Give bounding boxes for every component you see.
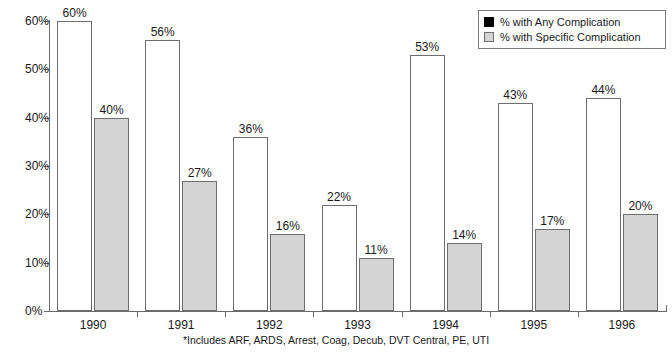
y-axis-tick-label: 10% (25, 257, 37, 269)
chart-footnote: *Includes ARF, ARDS, Arrest, Coag, Decub… (0, 334, 672, 346)
y-axis-tick-label: 40% (25, 112, 37, 124)
bar-any-1995: 43% (498, 103, 533, 311)
bar-any-1993: 22% (322, 205, 357, 311)
y-axis-tick-label: 50% (25, 63, 37, 75)
x-axis-line (49, 311, 666, 312)
bar-any-1992: 36% (233, 137, 268, 311)
x-axis-group-separator (490, 311, 491, 317)
x-axis-group-separator (313, 311, 314, 317)
bar-value-label: 36% (239, 123, 263, 136)
bar-value-label: 27% (188, 167, 212, 180)
plot-area: 0%10%20%30%40%50%60% 60%40%56%27%36%16%2… (49, 20, 666, 312)
bar-value-label: 22% (327, 191, 351, 204)
bar-value-label: 17% (540, 215, 564, 228)
y-axis-tick-label: 30% (25, 160, 37, 172)
x-axis-label-1990: 1990 (80, 319, 107, 332)
bar-specific-1991: 27% (182, 181, 217, 312)
bar-value-label: 14% (452, 229, 476, 242)
x-axis-group-separator (578, 311, 579, 317)
x-axis-label-1992: 1992 (256, 319, 283, 332)
bar-any-1991: 56% (145, 40, 180, 311)
bar-any-1994: 53% (410, 55, 445, 311)
bar-value-label: 16% (276, 220, 300, 233)
y-axis-tick-label: 0% (25, 305, 37, 317)
bar-value-label: 40% (100, 104, 124, 117)
bar-value-label: 20% (628, 200, 652, 213)
bar-any-1996: 44% (586, 98, 621, 311)
x-axis-group-separator (225, 311, 226, 317)
bar-value-label: 53% (415, 41, 439, 54)
bar-value-label: 56% (151, 26, 175, 39)
x-axis-label-1995: 1995 (520, 319, 547, 332)
bar-value-label: 43% (503, 89, 527, 102)
y-axis-tick-label: 20% (25, 208, 37, 220)
bar-specific-1995: 17% (535, 229, 570, 311)
bar-value-label: 60% (63, 7, 87, 20)
bar-specific-1993: 11% (359, 258, 394, 311)
x-axis-group-separator (402, 311, 403, 317)
x-axis-label-1996: 1996 (609, 319, 636, 332)
x-axis-label-1994: 1994 (432, 319, 459, 332)
bar-specific-1990: 40% (94, 118, 129, 311)
bar-specific-1994: 14% (447, 243, 482, 311)
bar-value-label: 44% (591, 84, 615, 97)
bar-specific-1996: 20% (623, 214, 658, 311)
x-axis-start-cap (49, 305, 50, 312)
y-axis-line (49, 20, 50, 312)
x-axis-label-1991: 1991 (168, 319, 195, 332)
x-axis-group-separator (137, 311, 138, 317)
x-axis-label-1993: 1993 (344, 319, 371, 332)
bar-specific-1992: 16% (270, 234, 305, 311)
complications-bar-chart: % with Any Complication % with Specific … (0, 0, 672, 357)
y-axis-tick-label: 60% (25, 15, 37, 27)
bar-value-label: 11% (364, 244, 387, 257)
x-axis-end-cap (666, 305, 667, 312)
bar-any-1990: 60% (57, 21, 92, 311)
